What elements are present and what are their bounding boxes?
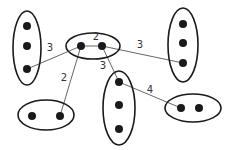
- cluster-bottom-right: [165, 94, 221, 122]
- node-dot: [56, 112, 64, 120]
- node-dot: [177, 104, 185, 112]
- node-dot: [115, 101, 123, 109]
- cluster-bottom-middle: [103, 71, 135, 145]
- edge-line: [27, 46, 81, 69]
- edge-weight-label: 3: [47, 42, 53, 53]
- cluster-ellipse: [18, 100, 74, 130]
- node-dot: [98, 42, 106, 50]
- node-dot: [28, 112, 36, 120]
- edge-weight-label: 2: [93, 31, 99, 42]
- clusters-layer: [13, 8, 221, 145]
- cluster-ellipse: [165, 94, 221, 122]
- cluster-right: [168, 8, 198, 82]
- clustered-graph-diagram: 233234: [0, 0, 230, 150]
- edge-weight-labels: 233234: [47, 31, 153, 95]
- edge-weight-label: 4: [147, 84, 153, 95]
- edges-layer: [27, 46, 183, 116]
- node-dot: [115, 125, 123, 133]
- node-dot: [23, 22, 31, 30]
- edge-weight-label: 2: [61, 72, 67, 83]
- cluster-bottom-left: [18, 100, 74, 130]
- node-dot: [195, 104, 203, 112]
- cluster-left: [13, 11, 41, 85]
- edge-weight-label: 3: [137, 39, 143, 50]
- node-dot: [77, 42, 85, 50]
- node-dot: [179, 20, 187, 28]
- node-dot: [23, 65, 31, 73]
- node-dot: [115, 78, 123, 86]
- node-dot: [179, 59, 187, 67]
- node-dot: [179, 39, 187, 47]
- edge-weight-label: 3: [100, 60, 106, 71]
- node-dot: [23, 42, 31, 50]
